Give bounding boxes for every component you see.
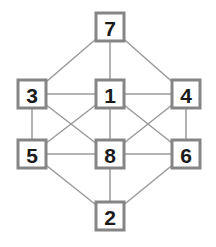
node-7: 7	[96, 13, 124, 41]
node-label: 7	[104, 17, 116, 40]
node-3: 3	[18, 80, 46, 108]
node-label: 3	[26, 84, 38, 107]
node-label: 4	[180, 84, 192, 107]
node-1: 1	[96, 80, 124, 108]
node-8: 8	[96, 140, 124, 168]
node-label: 8	[104, 144, 116, 167]
node-2: 2	[96, 202, 124, 230]
node-label: 2	[104, 206, 116, 229]
node-label: 1	[104, 84, 116, 107]
nodes-layer: 73145862	[18, 13, 200, 230]
node-label: 6	[180, 144, 192, 167]
node-5: 5	[18, 140, 46, 168]
node-label: 5	[26, 144, 38, 167]
edges-layer	[32, 27, 186, 216]
node-6: 6	[172, 140, 200, 168]
graph-diagram: 73145862	[0, 0, 216, 247]
node-4: 4	[172, 80, 200, 108]
